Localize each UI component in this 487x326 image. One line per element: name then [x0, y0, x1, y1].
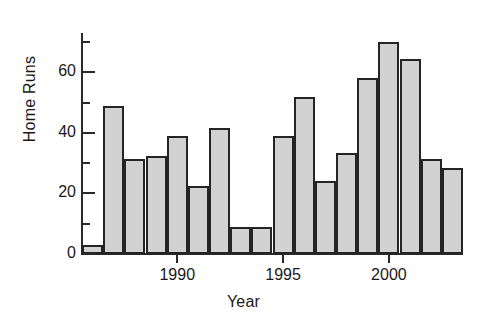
y-tick-label: 0 [34, 244, 76, 262]
x-tick [388, 255, 390, 263]
bar [103, 106, 124, 254]
bar [357, 78, 378, 254]
bar [251, 227, 272, 254]
bar [167, 136, 188, 254]
bar [336, 153, 357, 254]
bar [294, 97, 315, 254]
bar [209, 128, 230, 254]
bar [230, 227, 251, 254]
bar [315, 181, 336, 254]
bar [188, 186, 209, 254]
x-tick [282, 255, 284, 263]
y-tick-minor [83, 162, 90, 164]
home-runs-bar-chart: Home Runs Year 0204060 199019952000 [0, 0, 487, 326]
x-tick-label: 1995 [253, 266, 313, 284]
x-tick-label: 1990 [147, 266, 207, 284]
y-tick-minor [83, 102, 90, 104]
y-tick-major [83, 132, 95, 134]
x-tick-label: 2000 [359, 266, 419, 284]
y-tick-label: 60 [34, 62, 76, 80]
y-tick-major [83, 253, 95, 255]
bar [442, 168, 463, 254]
y-tick-label: 40 [34, 123, 76, 141]
y-tick-major [83, 192, 95, 194]
y-tick-major [83, 71, 95, 73]
y-tick-minor [83, 223, 90, 225]
bar [400, 59, 421, 254]
y-tick-minor [83, 41, 90, 43]
y-tick-label: 20 [34, 183, 76, 201]
x-tick [176, 255, 178, 263]
bar [273, 136, 294, 254]
bar [146, 156, 167, 254]
bar [124, 159, 145, 254]
bar [421, 159, 442, 254]
bar [378, 42, 399, 254]
